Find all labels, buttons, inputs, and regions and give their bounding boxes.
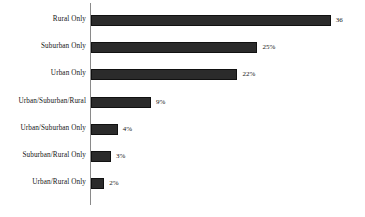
bar-row: Rural Only36 (0, 15, 365, 27)
bar-value-label: 36 (336, 14, 343, 26)
bar-row: Suburban/Rural Only3% (0, 151, 365, 163)
category-label: Suburban Only (0, 40, 86, 52)
bar-row: Urban/Suburban/Rural9% (0, 97, 365, 109)
bar (91, 97, 151, 108)
bar-value-label: 4% (123, 123, 132, 135)
bar (91, 178, 104, 189)
bar (91, 124, 118, 135)
category-label: Urban/Suburban Only (0, 122, 86, 134)
category-label: Urban/Rural Only (0, 176, 86, 188)
bar-chart: Rural Only36Suburban Only25%Urban Only22… (0, 0, 365, 217)
bar (91, 69, 237, 80)
category-label: Urban Only (0, 67, 86, 79)
category-label: Rural Only (0, 13, 86, 25)
bar (91, 151, 111, 162)
bar-row: Suburban Only25% (0, 42, 365, 54)
bar-value-label: 9% (156, 96, 165, 108)
bar-value-label: 3% (116, 150, 125, 162)
category-label: Urban/Suburban/Rural (0, 95, 86, 107)
bar-row: Urban Only22% (0, 69, 365, 81)
bar-value-label: 22% (242, 68, 255, 80)
bar-value-label: 25% (262, 41, 275, 53)
bar (91, 15, 331, 26)
bar-row: Urban/Rural Only2% (0, 178, 365, 190)
bar (91, 42, 257, 53)
bar-row: Urban/Suburban Only4% (0, 124, 365, 136)
bar-rows: Rural Only36Suburban Only25%Urban Only22… (0, 0, 365, 217)
category-label: Suburban/Rural Only (0, 149, 86, 161)
bar-value-label: 2% (109, 177, 118, 189)
